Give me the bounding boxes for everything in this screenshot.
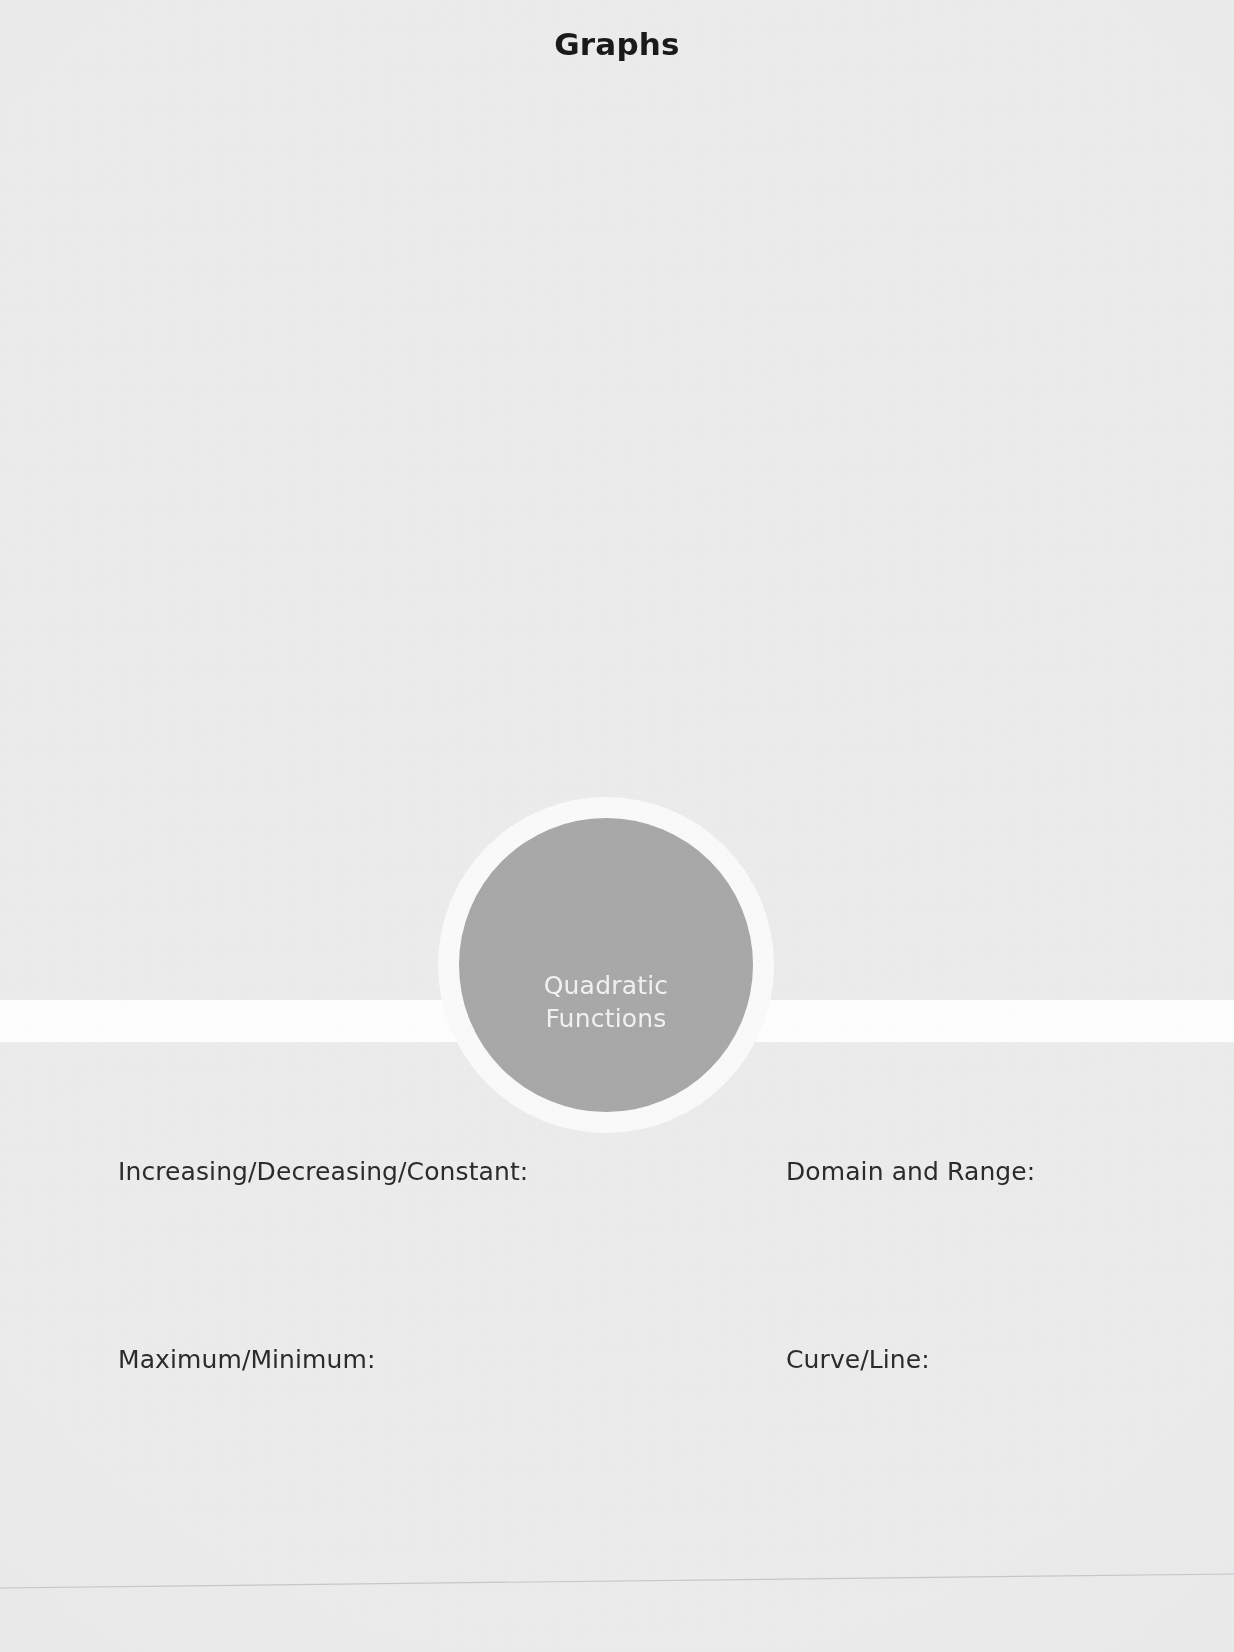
center-node-circle: Quadratic Functions — [459, 818, 753, 1112]
field-label-curve-line: Curve/Line: — [786, 1345, 930, 1374]
field-label-maximum-minimum: Maximum/Minimum: — [118, 1345, 375, 1374]
field-label-increasing-decreasing-constant: Increasing/Decreasing/Constant: — [118, 1157, 528, 1186]
center-node-label-line1: Quadratic — [544, 969, 669, 1002]
center-node: Quadratic Functions — [438, 797, 774, 1133]
center-node-label: Quadratic Functions — [544, 969, 669, 1035]
field-label-domain-and-range: Domain and Range: — [786, 1157, 1035, 1186]
center-node-label-line2: Functions — [544, 1002, 669, 1035]
worksheet-page: Graphs Quadratic Functions Increasing/De… — [0, 0, 1234, 1652]
page-title: Graphs — [0, 26, 1234, 62]
